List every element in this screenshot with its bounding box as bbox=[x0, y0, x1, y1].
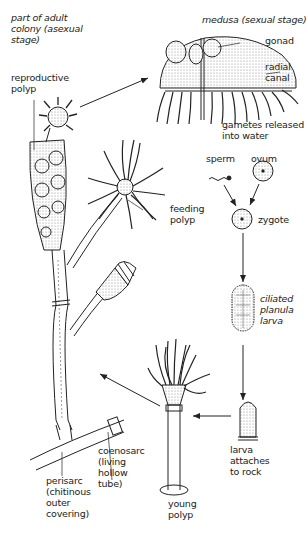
label-coenosarc: coenosarc (living hollow tube) bbox=[98, 445, 145, 489]
arrow-to-medusa bbox=[80, 78, 148, 107]
label-sperm: sperm bbox=[206, 153, 235, 164]
label-gonad: gonad bbox=[265, 35, 294, 46]
label-young-polyp: young polyp bbox=[168, 498, 197, 520]
label-feeding-polyp: feeding polyp bbox=[170, 203, 204, 225]
label-zygote: zygote bbox=[258, 214, 289, 225]
planula-larva-drawing bbox=[232, 285, 254, 331]
label-reproductive-polyp: reproductive polyp bbox=[11, 72, 69, 94]
label-adult-colony: part of adult colony (asexual stage) bbox=[11, 12, 83, 45]
attached-larva-drawing bbox=[238, 402, 258, 440]
label-medusa: medusa (sexual stage) bbox=[202, 14, 306, 25]
arrow-ovum-to-zygote bbox=[250, 184, 259, 205]
arrow-to-colony bbox=[100, 374, 160, 406]
label-planula: ciliated planula larva bbox=[260, 293, 294, 326]
young-polyp-drawing bbox=[148, 339, 210, 495]
label-larva-attaches: larva attaches to rock bbox=[230, 444, 270, 477]
label-ovum: ovum bbox=[251, 153, 277, 164]
label-perisarc: perisarc (chitinous outer covering) bbox=[46, 475, 91, 519]
arrow-sperm-to-zygote bbox=[224, 185, 236, 206]
label-radial-canal: radial canal bbox=[265, 61, 291, 83]
label-gametes: gametes released into water bbox=[222, 119, 304, 141]
adult-colony-drawing bbox=[30, 97, 165, 470]
